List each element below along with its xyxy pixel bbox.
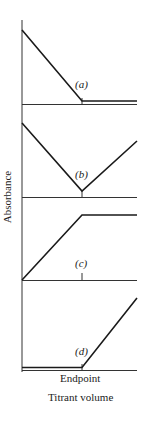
panel-label-b: (b) <box>75 168 88 180</box>
curve-b <box>22 123 137 191</box>
panel-label-d: (d) <box>75 345 88 357</box>
curve-a <box>22 30 137 101</box>
curve-d <box>22 298 137 368</box>
curve-c <box>22 215 137 280</box>
y-axis-label: Absorbance <box>1 168 13 226</box>
x-axis-label: Titrant volume <box>48 391 113 403</box>
panel-label-a: (a) <box>75 78 88 90</box>
endpoint-label: Endpoint <box>60 372 100 384</box>
titration-curves-plot <box>0 0 142 422</box>
panel-label-c: (c) <box>75 257 87 269</box>
